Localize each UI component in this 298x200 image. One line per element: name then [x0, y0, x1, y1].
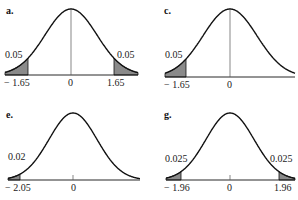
panel-c: c. 0.05 − 1.65 0 [164, 5, 295, 90]
left-area-label: 0.025 [165, 153, 188, 164]
tick-zero: 0 [227, 182, 232, 193]
right-area-label: 0.025 [270, 153, 293, 164]
panel-e: e. 0.02 − 2.05 0 [5, 109, 140, 193]
tick-zero: 0 [71, 182, 76, 193]
panel-label: c. [164, 5, 171, 16]
panel-label: g. [164, 109, 172, 120]
panel-label: a. [6, 5, 14, 16]
bell-curve [166, 113, 295, 178]
left-area-label: 0.02 [8, 151, 26, 162]
right-tail-shade [114, 58, 138, 75]
left-area-label: 0.05 [5, 49, 23, 60]
tick-zero: 0 [68, 77, 73, 88]
tick-right: 1.65 [107, 77, 125, 88]
tick-left: − 1.65 [164, 79, 190, 90]
tick-left: − 2.05 [5, 182, 31, 193]
tick-zero: 0 [227, 79, 232, 90]
tick-left: − 1.96 [164, 182, 190, 193]
panel-a: a. 0.05 0.05 − 1.65 0 1.65 [4, 5, 138, 88]
normal-distribution-figure: a. 0.05 0.05 − 1.65 0 1.65 c. 0.05 − 1.6… [0, 0, 298, 200]
bell-curve [8, 113, 140, 179]
tick-right: 1.96 [274, 182, 292, 193]
tick-left: − 1.65 [4, 77, 30, 88]
panel-g: g. 0.025 0.025 − 1.96 0 1.96 [164, 109, 295, 193]
panel-label: e. [6, 109, 13, 120]
left-area-label: 0.05 [165, 49, 183, 60]
right-area-label: 0.05 [117, 49, 135, 60]
